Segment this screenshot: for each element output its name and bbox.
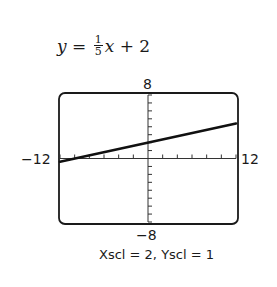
axes <box>60 95 236 222</box>
graph-window <box>0 0 277 287</box>
scale-caption: Xscl = 2, Yscl = 1 <box>99 247 214 262</box>
